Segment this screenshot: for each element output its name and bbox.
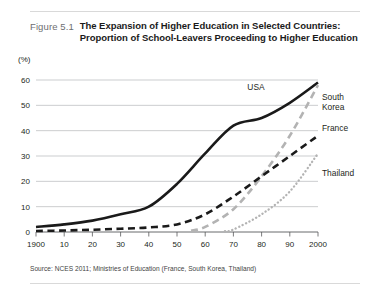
x-axis: 19001020304050607080902000 <box>27 232 327 249</box>
x-axis-tick-label: 2000 <box>309 240 327 249</box>
source-note: Source: NCES 2011; Ministries of Educati… <box>30 265 256 272</box>
series-label-thailand: Thailand <box>322 168 354 178</box>
x-axis-tick-label: 1900 <box>27 240 45 249</box>
series-label-south-korea: Korea <box>322 102 345 112</box>
y-axis-tick-label: 60 <box>21 76 30 85</box>
figure-card: Figure 5.1 The Expansion of Higher Educa… <box>0 0 387 294</box>
bottom-divider <box>30 283 360 284</box>
y-axis-tick-label: 30 <box>21 152 30 161</box>
figure-title-line-1: The Expansion of Higher Education in Sel… <box>80 20 341 31</box>
y-axis: 0102030405060 <box>21 76 30 237</box>
figure-title-line-2: Proportion of School-Leavers Proceeding … <box>80 32 358 44</box>
series-label-usa: USA <box>247 82 265 92</box>
x-axis-tick-label: 10 <box>60 240 69 249</box>
figure-header: Figure 5.1 The Expansion of Higher Educa… <box>30 20 370 44</box>
x-axis-tick-label: 90 <box>285 240 294 249</box>
x-axis-tick-label: 20 <box>88 240 97 249</box>
x-axis-tick-label: 40 <box>144 240 153 249</box>
figure-title: The Expansion of Higher Education in Sel… <box>80 20 358 44</box>
data-series-layer <box>36 83 318 232</box>
x-axis-tick-label: 70 <box>229 240 238 249</box>
series-label-france: France <box>322 123 348 133</box>
x-axis-tick-label: 60 <box>201 240 210 249</box>
figure-number: Figure 5.1 <box>30 20 74 32</box>
y-axis-unit-label: (%) <box>18 55 31 64</box>
x-axis-tick-label: 80 <box>257 240 266 249</box>
line-chart: 0102030405060 19001020304050607080902000… <box>0 48 387 258</box>
series-line-south-korea <box>191 85 318 231</box>
y-axis-tick-label: 10 <box>21 203 30 212</box>
series-label-south-korea: South <box>322 92 344 102</box>
y-axis-tick-label: 40 <box>21 127 30 136</box>
top-divider <box>30 11 360 12</box>
y-axis-tick-label: 50 <box>21 101 30 110</box>
y-axis-tick-label: 0 <box>26 228 31 237</box>
chart-plot-area: 0102030405060 19001020304050607080902000… <box>0 48 387 258</box>
x-axis-tick-label: 30 <box>116 240 125 249</box>
y-axis-tick-label: 20 <box>21 177 30 186</box>
x-axis-tick-label: 50 <box>173 240 182 249</box>
